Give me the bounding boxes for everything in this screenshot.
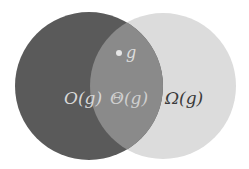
- point-g-label: g: [126, 43, 136, 62]
- omega-label: Ω(g): [164, 88, 203, 108]
- point-g-dot: [116, 50, 122, 56]
- venn-diagram: g O(g) Θ(g) Ω(g): [0, 0, 249, 169]
- theta-label: Θ(g): [110, 88, 148, 108]
- big-o-label: O(g): [64, 88, 102, 108]
